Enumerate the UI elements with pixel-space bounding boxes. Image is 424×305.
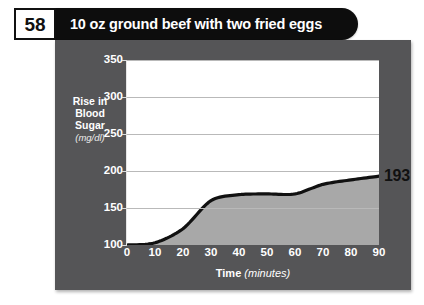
chart-title: 10 oz ground beef with two fried eggs bbox=[56, 16, 322, 32]
x-axis-tick: 0 bbox=[124, 247, 130, 259]
x-axis-tick-labels: 0102030405060708090 bbox=[127, 247, 379, 263]
page-number-box: 58 bbox=[14, 8, 56, 40]
gridline bbox=[127, 60, 379, 61]
y-axis-tick: 250 bbox=[83, 128, 123, 140]
gridline bbox=[127, 97, 379, 98]
x-axis-title: Time (minutes) bbox=[127, 268, 379, 279]
x-axis-tick: 10 bbox=[149, 247, 162, 259]
x-axis-tick: 50 bbox=[261, 247, 274, 259]
x-axis-tick: 30 bbox=[205, 247, 218, 259]
y-axis-title-line2: Blood bbox=[59, 108, 121, 120]
x-axis-tick: 70 bbox=[317, 247, 330, 259]
gridline bbox=[127, 134, 379, 135]
area-fill bbox=[127, 176, 379, 245]
end-value-label: 193 bbox=[384, 168, 410, 184]
x-axis-tick: 20 bbox=[177, 247, 190, 259]
y-axis-tick: 150 bbox=[83, 202, 123, 214]
page-number: 58 bbox=[24, 15, 45, 34]
plot-area bbox=[127, 60, 379, 245]
x-axis-title-text: Time bbox=[216, 267, 241, 279]
chart-title-bar: 10 oz ground beef with two fried eggs bbox=[56, 8, 358, 40]
x-axis-tick: 60 bbox=[289, 247, 302, 259]
y-axis-tick: 350 bbox=[83, 54, 123, 66]
x-axis-tick: 90 bbox=[373, 247, 386, 259]
chart-page: 58 10 oz ground beef with two fried eggs… bbox=[0, 0, 424, 305]
y-axis-tick: 200 bbox=[83, 165, 123, 177]
x-axis-unit: (minutes) bbox=[244, 267, 290, 279]
y-axis-tick: 100 bbox=[83, 239, 123, 251]
gridline bbox=[127, 208, 379, 209]
data-series-area-chart bbox=[127, 60, 379, 245]
chart-panel: Rise in Blood Sugar (mg/dl) 100150200250… bbox=[55, 40, 411, 290]
x-axis-tick: 80 bbox=[345, 247, 358, 259]
gridline bbox=[127, 171, 379, 172]
y-axis-tick: 300 bbox=[83, 91, 123, 103]
x-axis-tick: 40 bbox=[233, 247, 246, 259]
